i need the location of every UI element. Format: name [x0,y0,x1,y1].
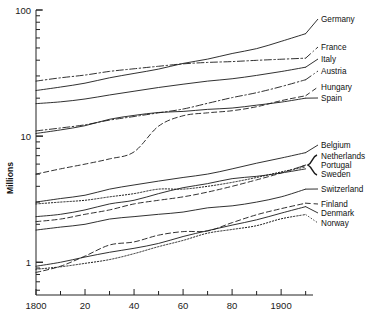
series-label-austria: Austria [321,67,347,76]
series-label-finland: Finland [321,200,348,209]
x-tick-label: 20 [80,300,91,311]
series-label-netherlands: Netherlands [321,152,365,161]
series-label-sweden: Sweden [321,170,351,179]
y-axis-title: Millions [5,162,15,194]
y-tick-label: 10 [20,131,31,142]
y-tick-label: 100 [15,5,31,16]
series-label-hungary: Hungary [321,83,353,92]
series-label-denmark: Denmark [321,209,355,218]
chart-background [0,0,367,331]
series-label-spain: Spain [321,94,342,103]
series-label-portugal: Portugal [321,161,352,170]
chart-figure: GermanyFranceItalyAustriaHungarySpainBel… [0,0,367,331]
series-label-belgium: Belgium [321,141,351,150]
x-tick-label: 1900 [271,300,292,311]
series-label-italy: Italy [321,55,337,64]
series-label-france: France [321,43,347,52]
x-tick-label: 80 [227,300,238,311]
series-label-germany: Germany [321,15,356,24]
series-label-norway: Norway [321,219,350,228]
x-tick-label: 40 [129,300,140,311]
x-tick-label: 1800 [25,300,46,311]
series-label-switzerland: Switzerland [321,185,364,194]
population-log-line-chart: GermanyFranceItalyAustriaHungarySpainBel… [0,0,367,331]
x-tick-label: 60 [178,300,189,311]
y-tick-label: 1 [26,257,31,268]
